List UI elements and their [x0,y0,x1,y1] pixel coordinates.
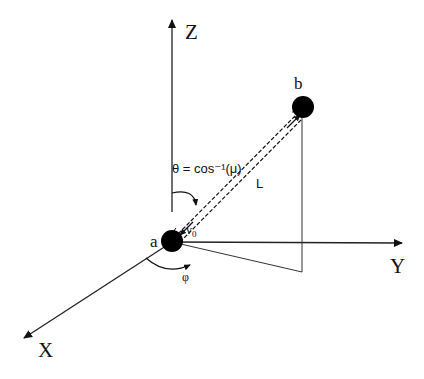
point-b-label: b [294,74,303,93]
length-label: L [256,176,263,191]
x-axis-label: X [38,338,53,362]
point-b [292,96,314,118]
coordinate-diagram: Z Y X a b θ = cos⁻¹(μ) L φ v0 [0,0,424,379]
point-a-label: a [150,232,158,251]
phi-label: φ [182,270,189,284]
velocity-subscript: 0 [192,229,197,239]
velocity-label: v0 [186,223,197,239]
x-axis [24,242,172,338]
theta-label: θ = cos⁻¹(μ) [172,161,242,176]
z-axis-label: Z [185,20,198,44]
y-axis-label: Y [390,254,405,278]
phi-arc [146,258,190,269]
theta-arc [172,192,196,205]
a-projection-line [172,242,302,272]
y-axis [172,242,402,243]
point-a [161,230,183,252]
ab-connector [174,114,302,242]
